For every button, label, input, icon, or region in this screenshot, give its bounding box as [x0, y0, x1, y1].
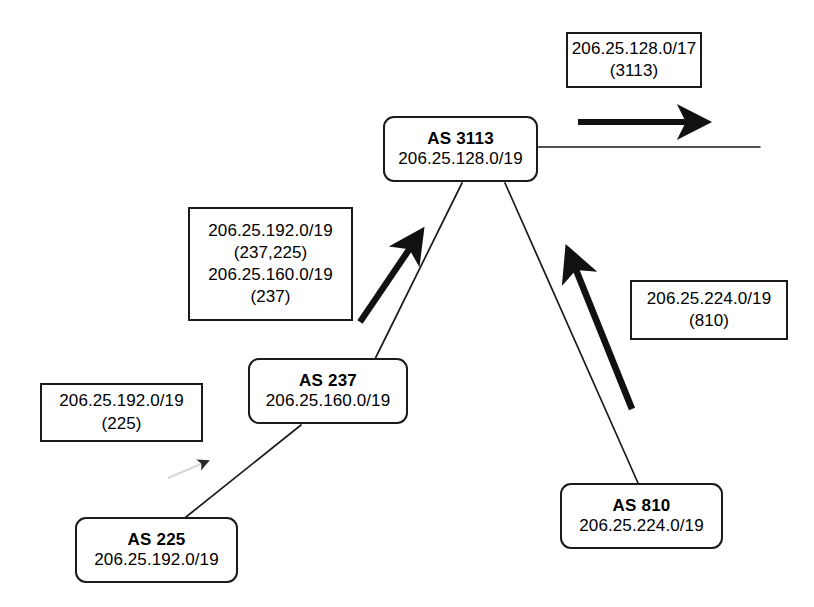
as-node-prefix: 206.25.192.0/19 [94, 550, 218, 570]
advertisement-line: 206.25.192.0/19 [59, 390, 183, 412]
as-node-prefix: 206.25.128.0/19 [398, 149, 522, 169]
arrow-237-to-3113 [360, 232, 421, 322]
as-node-label: AS 225 [128, 530, 186, 550]
link-as810-as3113 [505, 183, 638, 483]
as-node-label: AS 810 [613, 496, 671, 516]
advertisement-line: 206.25.192.0/19 [208, 220, 332, 242]
advertisement-line: 206.25.128.0/17 [572, 38, 696, 60]
advertisement-box-as3113: 206.25.128.0/17 (3113) [566, 32, 702, 88]
arrow-810-to-3113 [568, 250, 632, 409]
as-node-label: AS 237 [299, 371, 357, 391]
advertisement-line: 206.25.160.0/19 [208, 264, 332, 286]
link-as225-as237 [186, 425, 301, 517]
advertisement-line: (237) [250, 286, 290, 308]
as-node-as237[interactable]: AS 237 206.25.160.0/19 [248, 358, 408, 424]
as-node-label: AS 3113 [427, 129, 494, 149]
advertisement-box-as225: 206.25.192.0/19 (225) [40, 383, 203, 442]
advertisement-box-as237: 206.25.192.0/19 (237,225) 206.25.160.0/1… [188, 207, 353, 321]
arrow-225-to-237 [168, 461, 208, 478]
advertisement-line: (810) [689, 310, 729, 332]
advertisement-line: (3113) [610, 60, 658, 82]
as-node-prefix: 206.25.224.0/19 [579, 516, 703, 536]
advertisement-line: (225) [101, 413, 141, 435]
as-node-as225[interactable]: AS 225 206.25.192.0/19 [75, 517, 238, 583]
as-node-as810[interactable]: AS 810 206.25.224.0/19 [560, 483, 723, 549]
advertisement-box-as810: 206.25.224.0/19 (810) [630, 280, 788, 340]
advertisement-line: (237,225) [234, 242, 308, 264]
advertisement-line: 206.25.224.0/19 [647, 288, 771, 310]
as-topology-diagram: AS 3113 206.25.128.0/19 AS 237 206.25.16… [0, 0, 814, 607]
link-as237-as3113 [375, 183, 462, 359]
as-node-as3113[interactable]: AS 3113 206.25.128.0/19 [383, 116, 538, 182]
as-node-prefix: 206.25.160.0/19 [266, 391, 390, 411]
